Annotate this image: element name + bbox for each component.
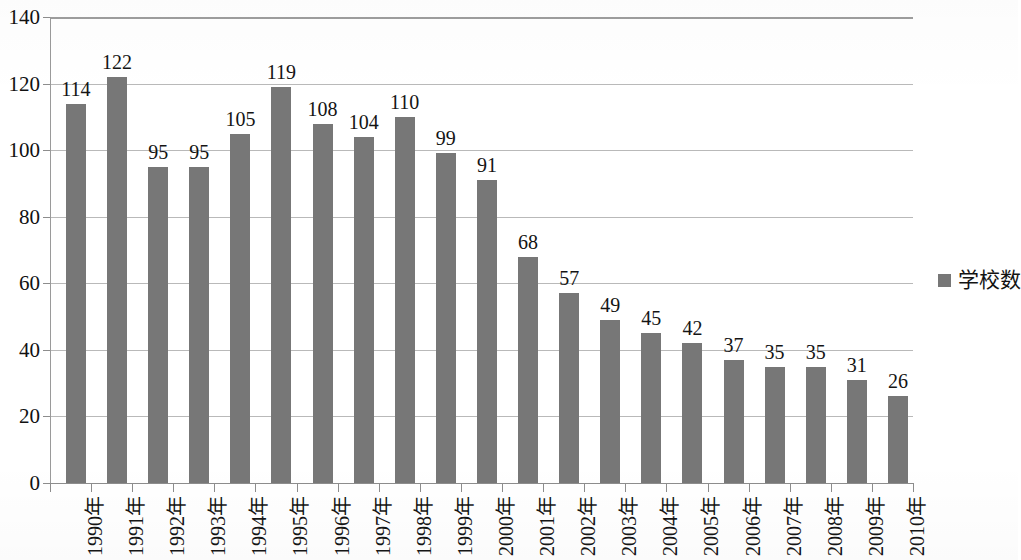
x-axis-category-label: 2005年 [701, 496, 721, 556]
x-axis-tick [666, 483, 667, 492]
bar [271, 87, 291, 483]
bar-value-label: 119 [259, 62, 303, 82]
x-axis-category-label: 2001年 [537, 496, 557, 556]
bar [847, 380, 867, 483]
x-axis-category-label: 2000年 [496, 496, 516, 556]
y-axis-tick [43, 416, 50, 417]
bar-value-label: 99 [424, 128, 468, 148]
bar [559, 293, 579, 483]
bar [230, 134, 250, 484]
x-axis-tick [214, 483, 215, 492]
y-axis-tick-label: 80 [0, 207, 40, 228]
bar [313, 124, 333, 483]
x-axis-tick [173, 483, 174, 492]
bar [600, 320, 620, 483]
x-axis-category-label: 1995年 [290, 496, 310, 556]
legend-entry-label: 学校数 [958, 270, 1021, 291]
x-axis-tick [297, 483, 298, 492]
bars-layer: 1141229595105119108104110999168574945423… [50, 17, 913, 483]
x-axis-tick [132, 483, 133, 492]
x-axis-category-label: 2010年 [907, 496, 927, 556]
y-axis-tick-label: 140 [0, 7, 40, 28]
bar [765, 367, 785, 484]
bar [477, 180, 497, 483]
bar-value-label: 37 [712, 335, 756, 355]
bar-value-label: 122 [95, 52, 139, 72]
bar-value-label: 57 [547, 268, 591, 288]
bar [189, 167, 209, 483]
x-axis-tick [543, 483, 544, 492]
y-axis-tick-label: 0 [0, 473, 40, 494]
bar-value-label: 68 [506, 232, 550, 252]
bar [354, 137, 374, 483]
bar-value-label: 45 [629, 308, 673, 328]
x-axis-tick [584, 483, 585, 492]
y-axis-tick-label: 60 [0, 273, 40, 294]
x-axis-category-label: 1993年 [208, 496, 228, 556]
bar-value-label: 35 [753, 342, 797, 362]
x-axis-tick [50, 483, 51, 492]
y-axis-labels: 020406080100120140 [0, 0, 40, 560]
x-axis-tick [872, 483, 873, 492]
y-axis-tick [43, 217, 50, 218]
x-axis-category-label: 2002年 [578, 496, 598, 556]
bar-value-label: 114 [54, 79, 98, 99]
y-axis-tick [43, 150, 50, 151]
x-axis-category-label: 2006年 [743, 496, 763, 556]
chart-legend: 学校数 [938, 270, 1021, 291]
x-axis-tick [461, 483, 462, 492]
bar-value-label: 35 [794, 342, 838, 362]
bar [641, 333, 661, 483]
x-axis-tick [625, 483, 626, 492]
bar-value-label: 108 [301, 99, 345, 119]
y-axis-tick [43, 283, 50, 284]
bar-value-label: 26 [876, 371, 920, 391]
bar-value-label: 31 [835, 355, 879, 375]
y-axis-tick [43, 350, 50, 351]
bar [148, 167, 168, 483]
x-axis-category-label: 1990年 [85, 496, 105, 556]
x-axis-tick [255, 483, 256, 492]
y-axis-tick [43, 17, 50, 18]
x-axis-tick [338, 483, 339, 492]
bar [66, 104, 86, 483]
y-axis-tick-label: 20 [0, 406, 40, 427]
x-axis-tick [502, 483, 503, 492]
bar [888, 396, 908, 483]
bar-value-label: 91 [465, 155, 509, 175]
x-axis-category-label: 1997年 [373, 496, 393, 556]
y-axis-tick [43, 84, 50, 85]
bar-value-label: 105 [218, 109, 262, 129]
y-axis-tick-label: 120 [0, 74, 40, 95]
x-axis-tick [749, 483, 750, 492]
x-axis-category-label: 1994年 [249, 496, 269, 556]
bar [518, 257, 538, 483]
x-axis-category-label: 1998年 [414, 496, 434, 556]
x-axis-tick [913, 483, 914, 492]
bar-value-label: 42 [670, 318, 714, 338]
x-axis-tick [831, 483, 832, 492]
bar [682, 343, 702, 483]
y-axis-tick [43, 483, 50, 484]
x-axis-category-label: 1999年 [455, 496, 475, 556]
x-axis-tick [790, 483, 791, 492]
bar-value-label: 110 [383, 92, 427, 112]
bar-value-label: 49 [588, 295, 632, 315]
x-axis-tick [379, 483, 380, 492]
bar [395, 117, 415, 483]
bar-value-label: 95 [136, 142, 180, 162]
x-axis-category-label: 1996年 [332, 496, 352, 556]
bar [724, 360, 744, 483]
bar [107, 77, 127, 483]
y-axis-tick-label: 100 [0, 140, 40, 161]
x-axis-tick [420, 483, 421, 492]
bar [806, 367, 826, 484]
x-axis-tick [91, 483, 92, 492]
x-axis-category-label: 2003年 [619, 496, 639, 556]
y-axis-line [50, 17, 51, 484]
x-axis-category-label: 2008年 [825, 496, 845, 556]
x-axis-tick [708, 483, 709, 492]
bar-value-label: 104 [342, 112, 386, 132]
bar-value-label: 95 [177, 142, 221, 162]
